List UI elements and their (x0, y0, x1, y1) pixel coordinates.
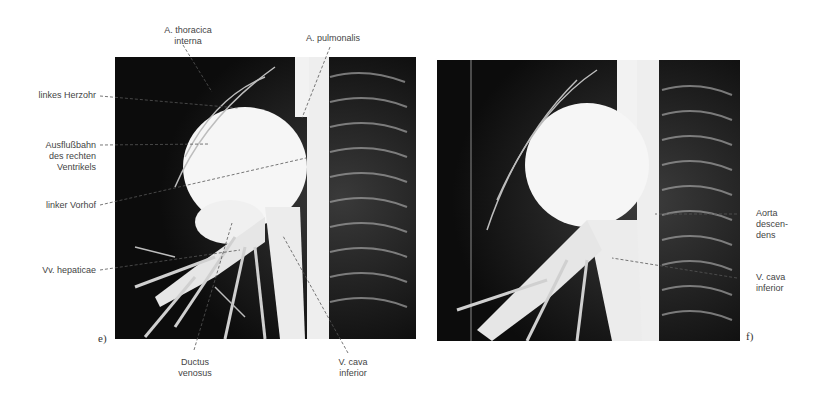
label-ausflussbahn: Ausflußbahn des rechten Ventrikels (10, 140, 96, 173)
label-aorta-descendens: Aorta descen- dens (756, 208, 816, 241)
label-a-thoracica-interna: A. thoracica interna (148, 25, 228, 47)
label-vv-hepaticae: Vv. hepaticae (10, 265, 96, 276)
label-v-cava-inferior-f: V. cava inferior (756, 272, 816, 294)
label-linker-vorhof: linker Vorhof (10, 200, 96, 211)
radiograph-panel-e (115, 57, 416, 339)
panel-label-f: f) (746, 330, 753, 342)
angiogram-image-e (115, 57, 416, 339)
label-ductus-venosus: Ductus venosus (160, 357, 230, 379)
panel-label-e: e) (98, 332, 107, 344)
radiograph-panel-f (437, 60, 740, 341)
label-a-pulmonalis: A. pulmonalis (298, 33, 368, 44)
label-linkes-herzohr: linkes Herzohr (10, 90, 96, 101)
angiogram-image-f (437, 60, 740, 341)
label-v-cava-inferior-e: V. cava inferior (318, 357, 388, 379)
